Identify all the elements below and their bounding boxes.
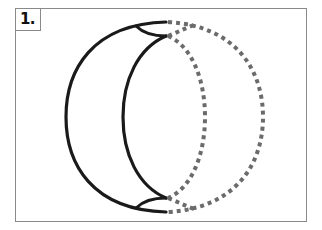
inner-dashed-arc	[168, 36, 205, 198]
top-connector	[136, 26, 166, 36]
sphere-diagram	[0, 0, 322, 230]
bottom-dashed-connector	[168, 198, 196, 210]
inner-solid-arc	[123, 36, 166, 198]
outer-solid-arc	[66, 22, 166, 212]
bottom-connector	[136, 198, 166, 208]
top-dashed-connector	[168, 24, 196, 36]
outer-dashed-arc	[168, 22, 263, 212]
